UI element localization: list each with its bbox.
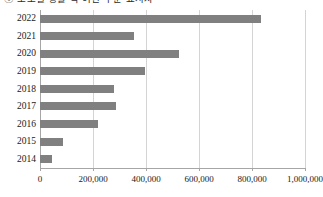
gridline-x-1000000 <box>305 10 306 168</box>
chart-screenshot: ⓒ 도로별 생활 각 여건 수준 표시자 2022202120202019201… <box>0 0 323 197</box>
y-axis-label-2015: 2015 <box>0 136 36 146</box>
x-axis-tickmark <box>252 168 253 171</box>
x-axis-tick-label: 600,000 <box>184 174 213 184</box>
x-axis-tickmark <box>305 168 306 171</box>
y-axis-label-2018: 2018 <box>0 84 36 94</box>
x-axis-tickmark <box>93 168 94 171</box>
bar-2020 <box>40 50 179 58</box>
x-axis-tickmark <box>40 168 41 171</box>
bar-2018 <box>40 85 114 93</box>
y-axis-label-2019: 2019 <box>0 66 36 76</box>
bar-row <box>40 10 305 28</box>
y-axis-label-2017: 2017 <box>0 101 36 111</box>
y-axis-label-2020: 2020 <box>0 48 36 58</box>
x-axis-tick-label: 0 <box>38 174 43 184</box>
y-axis-label-2016: 2016 <box>0 119 36 129</box>
y-axis-category-labels: 202220212020201920182017201620152014 <box>0 10 36 168</box>
x-axis-tick-label: 800,000 <box>237 174 266 184</box>
bar-row <box>40 150 305 168</box>
plot-area <box>40 10 305 168</box>
bar-row <box>40 63 305 81</box>
y-axis-label-2021: 2021 <box>0 31 36 41</box>
x-axis-line <box>40 168 305 169</box>
y-axis-label-2014: 2014 <box>0 154 36 164</box>
chart-title: ⓒ 도로별 생활 각 여건 수준 표시자 <box>4 0 153 5</box>
x-axis-tick-label: 400,000 <box>131 174 160 184</box>
bar-2017 <box>40 102 116 110</box>
bar-row <box>40 80 305 98</box>
bar-2014 <box>40 155 52 163</box>
bar-row <box>40 133 305 151</box>
bar-2021 <box>40 32 134 40</box>
bar-2019 <box>40 67 145 75</box>
x-axis-tick-label: 1,000,000 <box>287 174 323 184</box>
x-axis-tick-label: 200,000 <box>78 174 107 184</box>
bar-row <box>40 28 305 46</box>
x-axis-tickmark <box>199 168 200 171</box>
bar-row <box>40 45 305 63</box>
bar-row <box>40 98 305 116</box>
bar-2022 <box>40 15 261 23</box>
bar-2016 <box>40 120 98 128</box>
bar-2015 <box>40 138 63 146</box>
y-axis-label-2022: 2022 <box>0 13 36 23</box>
bar-row <box>40 115 305 133</box>
x-axis-tickmark <box>146 168 147 171</box>
